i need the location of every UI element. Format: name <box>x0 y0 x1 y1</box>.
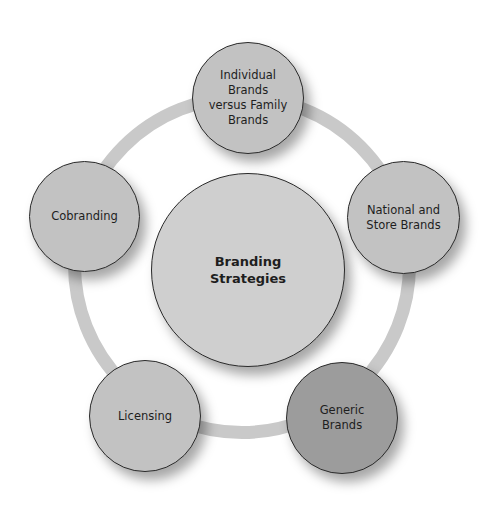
node-cobranding: Cobranding <box>29 161 140 272</box>
node-generic-brands: Generic Brands <box>286 362 398 474</box>
center-node-branding-strategies: Branding Strategies <box>151 173 345 367</box>
node-national-and-store-brands: National and Store Brands <box>347 161 460 274</box>
node-label: Cobranding <box>45 209 124 224</box>
center-node-label: Branding Strategies <box>204 253 292 287</box>
node-licensing: Licensing <box>89 360 201 472</box>
node-label: Licensing <box>112 409 178 424</box>
node-individual-vs-family-brands: Individual Brands versus Family Brands <box>192 42 304 154</box>
node-label: Generic Brands <box>306 403 378 433</box>
node-label: National and Store Brands <box>353 203 455 233</box>
node-label: Individual Brands versus Family Brands <box>202 68 294 128</box>
